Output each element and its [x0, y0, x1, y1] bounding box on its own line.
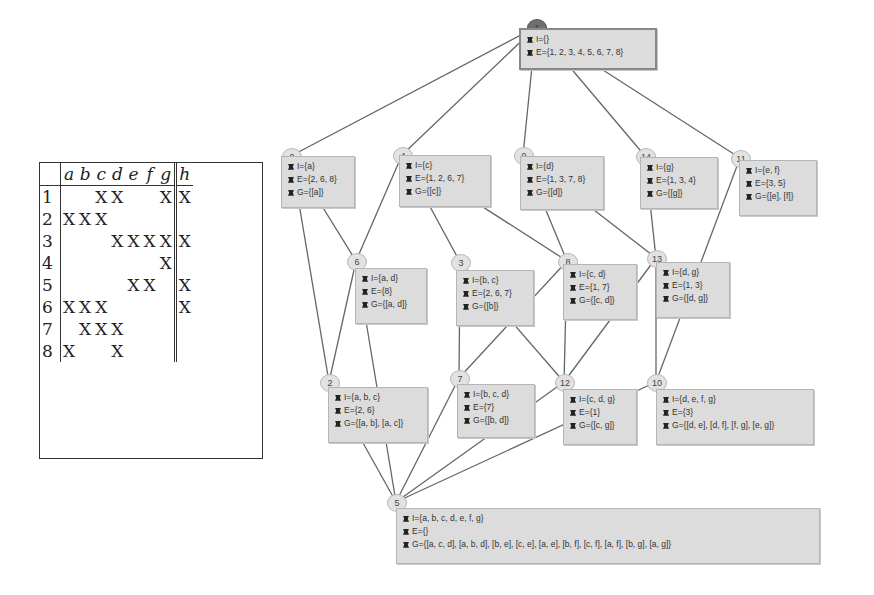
bug-icon — [527, 50, 533, 56]
target-cell — [175, 318, 193, 340]
bug-icon — [570, 272, 576, 278]
attribute-header: e — [125, 163, 141, 186]
concept-box-12: I={c, d, g}E={1}G={[c, g]} — [563, 389, 637, 445]
bug-icon — [663, 270, 669, 276]
target-cell: X — [175, 230, 193, 252]
target-cell — [175, 252, 193, 274]
bug-icon — [288, 190, 294, 196]
incidence-cell — [61, 252, 78, 274]
concept-attribute-line: I={e, f} — [746, 164, 810, 177]
incidence-cell — [93, 230, 109, 252]
incidence-cell: X — [61, 340, 78, 362]
bug-icon — [406, 176, 412, 182]
bug-icon — [406, 189, 412, 195]
bug-icon — [403, 516, 409, 522]
attribute-header: g — [158, 163, 176, 186]
concept-attribute-line: G={[a, b], [a, c]} — [335, 417, 421, 430]
incidence-cell — [125, 318, 141, 340]
concept-box-7: I={b, c, d}E={7}G={[b, d]} — [457, 384, 535, 438]
concept-attribute-line: E={8} — [362, 285, 420, 298]
incidence-cell — [77, 274, 93, 296]
incidence-cell — [158, 208, 176, 230]
bug-icon — [663, 423, 669, 429]
context-row: 2XXX — [40, 208, 193, 230]
concept-box-10: I={d, e, f, g}E={3}G={[d, e], [d, f], [f… — [656, 389, 814, 445]
incidence-cell: X — [93, 186, 109, 209]
incidence-cell — [61, 274, 78, 296]
concept-attribute-line: E={1, 3} — [663, 279, 723, 292]
concept-attribute-line: E={7} — [464, 401, 528, 414]
bug-icon — [406, 163, 412, 169]
incidence-cell: X — [93, 296, 109, 318]
incidence-cell — [125, 296, 141, 318]
concept-attribute-line: I={} — [527, 33, 649, 46]
bug-icon — [463, 278, 469, 284]
context-row: 4X — [40, 252, 193, 274]
concept-attribute-line: E={2, 6, 7} — [463, 287, 527, 300]
incidence-cell — [61, 230, 78, 252]
concept-attribute-line: I={d, e, f, g} — [663, 393, 807, 406]
attribute-header: f — [142, 163, 158, 186]
object-id: 6 — [40, 296, 61, 318]
concept-attribute-line: E={1, 7} — [570, 281, 630, 294]
incidence-cell — [158, 296, 176, 318]
incidence-cell — [77, 230, 93, 252]
concept-attribute-line: I={b, c, d} — [464, 388, 528, 401]
concept-attribute-line: E={3, 5} — [746, 177, 810, 190]
incidence-cell: X — [158, 252, 176, 274]
incidence-cell — [125, 252, 141, 274]
concept-attribute-line: I={d} — [527, 160, 597, 173]
concept-attribute-line: G={[d, g]} — [663, 292, 723, 305]
bug-icon — [362, 276, 368, 282]
bug-icon — [335, 408, 341, 414]
object-id: 1 — [40, 186, 61, 209]
incidence-cell — [125, 340, 141, 362]
attribute-header: c — [93, 163, 109, 186]
bug-icon — [362, 289, 368, 295]
bug-icon — [362, 302, 368, 308]
concept-box-5: I={a, b, c, d, e, f, g}E={}G={[a, c, d],… — [396, 508, 820, 564]
incidence-cell — [77, 186, 93, 209]
lattice-edge — [291, 27, 536, 156]
concept-box-11: I={e, f}E={3, 5}G={[e], [f]} — [739, 160, 817, 216]
concept-attribute-line: I={a, b, c} — [335, 391, 421, 404]
bug-icon — [288, 177, 294, 183]
incidence-cell: X — [77, 208, 93, 230]
concept-attribute-line: G={[b]} — [463, 300, 527, 313]
incidence-cell — [142, 340, 158, 362]
concept-box-8: I={c, d}E={1, 7}G={[c, d]} — [563, 264, 637, 320]
attribute-header: b — [77, 163, 93, 186]
object-id: 4 — [40, 252, 61, 274]
incidence-cell — [158, 318, 176, 340]
bug-icon — [527, 190, 533, 196]
incidence-cell — [109, 274, 125, 296]
incidence-cell: X — [77, 296, 93, 318]
concept-box-13: I={d, g}E={1, 3}G={[d, g]} — [656, 262, 730, 318]
concept-box-9: I={d}E={1, 3, 7, 8}G={[d]} — [520, 156, 604, 210]
incidence-cell — [61, 186, 78, 209]
incidence-cell: X — [61, 208, 78, 230]
concept-box-6: I={a, d}E={8}G={[a, d]} — [355, 268, 427, 324]
lattice-edge — [356, 155, 402, 261]
concept-attribute-line: I={a, b, c, d, e, f, g} — [403, 512, 813, 525]
incidence-cell: X — [158, 186, 176, 209]
concept-attribute-line: E={1, 2, 6, 7} — [406, 172, 484, 185]
incidence-cell: X — [77, 318, 93, 340]
bug-icon — [403, 529, 409, 535]
attribute-header: a — [61, 163, 78, 186]
incidence-cell — [109, 252, 125, 274]
incidence-cell — [142, 252, 158, 274]
lattice-edge — [402, 27, 536, 155]
concept-attribute-line: I={c, d} — [570, 268, 630, 281]
bug-icon — [570, 423, 576, 429]
bug-icon — [647, 191, 653, 197]
bug-icon — [663, 296, 669, 302]
bug-icon — [570, 397, 576, 403]
concept-box-3: I={b, c}E={2, 6, 7}G={[b]} — [456, 270, 534, 326]
incidence-cell — [125, 186, 141, 209]
incidence-cell — [61, 318, 78, 340]
incidence-cell — [142, 318, 158, 340]
concept-attribute-line: G={[c, d]} — [570, 294, 630, 307]
bug-icon — [464, 418, 470, 424]
incidence-cell — [158, 340, 176, 362]
